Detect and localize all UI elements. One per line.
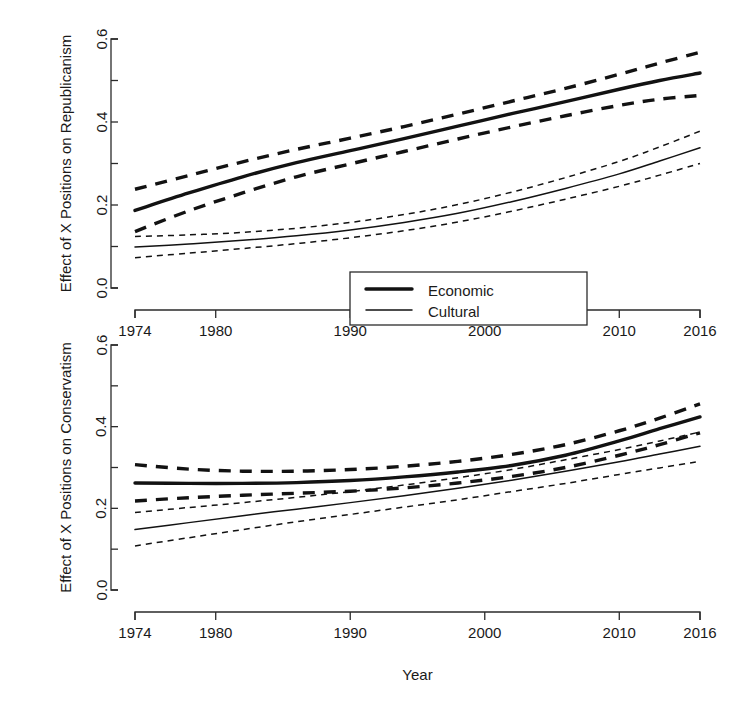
y-tick-label-top-6: 0.6	[93, 29, 110, 50]
figure-panel-stack: 0.00.20.40.6Effect of X Positions on Rep…	[0, 0, 743, 712]
legend-label-cultural: Cultural	[428, 303, 480, 320]
series-line-bottom-5	[135, 461, 700, 546]
series-line-top-5	[135, 164, 700, 258]
y-tick-label-top-2: 0.2	[93, 195, 110, 216]
y-axis-title-top: Effect of X Positions on Republicanism	[57, 35, 74, 292]
y-tick-label-bottom-2: 0.2	[93, 498, 110, 519]
y-tick-label-bottom-4: 0.4	[93, 416, 110, 437]
y-tick-label-top-4: 0.4	[93, 112, 110, 133]
panel-bottom: 0.00.20.40.6Effect of X Positions on Con…	[57, 335, 717, 683]
x-tick-label-top-4: 2010	[603, 322, 636, 339]
series-line-top-1	[135, 52, 700, 189]
y-axis-title-bottom: Effect of X Positions on Conservatism	[57, 342, 74, 593]
x-tick-label-bottom-2: 1990	[334, 624, 367, 641]
y-tick-label-bottom-0: 0.0	[93, 580, 110, 601]
x-tick-label-top-1: 1980	[199, 322, 232, 339]
series-line-top-0	[135, 73, 700, 210]
legend-label-economic: Economic	[428, 282, 494, 299]
series-line-bottom-1	[135, 404, 700, 472]
x-tick-label-top-5: 2016	[683, 322, 716, 339]
y-tick-label-bottom-6: 0.6	[93, 335, 110, 356]
chart-canvas: 0.00.20.40.6Effect of X Positions on Rep…	[0, 0, 743, 712]
x-tick-label-bottom-0: 1974	[118, 624, 151, 641]
x-tick-label-bottom-4: 2010	[603, 624, 636, 641]
legend: EconomicCultural	[350, 272, 587, 325]
y-tick-label-top-0: 0.0	[93, 278, 110, 299]
x-tick-label-bottom-1: 1980	[199, 624, 232, 641]
x-tick-label-top-0: 1974	[118, 322, 151, 339]
x-axis-line-bottom	[135, 612, 700, 620]
x-axis-title-bottom: Year	[402, 666, 432, 683]
x-tick-label-bottom-3: 2000	[468, 624, 501, 641]
x-tick-label-bottom-5: 2016	[683, 624, 716, 641]
